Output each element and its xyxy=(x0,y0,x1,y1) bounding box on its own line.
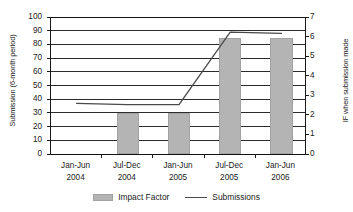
x-axis-label: Jan-Jun2005 xyxy=(152,160,203,188)
y-tick-label-left: 100 xyxy=(28,13,42,21)
x-axis-label-year: 2004 xyxy=(50,172,101,184)
legend-swatch-line-icon xyxy=(185,197,207,198)
x-tickmark xyxy=(204,154,205,158)
y-tick-label-left: 30 xyxy=(33,109,42,117)
x-axis-label-period: Jan-Jun xyxy=(152,160,203,172)
y-tick-label-right: 7 xyxy=(310,13,315,21)
legend-swatch-bar-icon xyxy=(93,194,113,201)
y-tick-label-left: 10 xyxy=(33,136,42,144)
y-tick-label-left: 20 xyxy=(33,123,42,131)
legend-label-submissions: Submissions xyxy=(212,192,259,202)
x-axis-label-period: Jan-Jun xyxy=(50,160,101,172)
legend-item-submissions: Submissions xyxy=(185,192,259,202)
x-tickmark xyxy=(101,154,102,158)
x-axis-tickmarks xyxy=(50,154,306,158)
y-tick-label-right: 1 xyxy=(310,130,315,138)
y-axis-ticks-right: 01234567 xyxy=(307,17,329,154)
x-axis-label: Jan-Jun2006 xyxy=(255,160,306,188)
x-axis-label-period: Jul-Dec xyxy=(204,160,255,172)
y-tick-label-right: 6 xyxy=(310,33,315,41)
y-tick-label-left: 80 xyxy=(33,40,42,48)
chart-container: Submission (6-month period) IF when subm… xyxy=(0,0,353,212)
y-tick-label-left: 50 xyxy=(33,82,42,90)
y-axis-ticks-left: 0102030405060708090100 xyxy=(22,17,44,154)
plot-area xyxy=(50,17,306,154)
x-axis-label-year: 2005 xyxy=(152,172,203,184)
y-tick-label-right: 5 xyxy=(310,52,315,60)
y-tick-label-left: 40 xyxy=(33,95,42,103)
x-axis-label-year: 2005 xyxy=(204,172,255,184)
legend-item-impact-factor: Impact Factor xyxy=(93,192,169,202)
y-tick-label-left: 60 xyxy=(33,68,42,76)
x-axis-label-year: 2006 xyxy=(255,172,306,184)
y-axis-title-left: Submission (6-month period) xyxy=(8,21,17,141)
x-axis-label-period: Jan-Jun xyxy=(255,160,306,172)
y-tick-label-right: 3 xyxy=(310,91,315,99)
legend-label-impact-factor: Impact Factor xyxy=(118,192,169,202)
x-axis-label-period: Jul-Dec xyxy=(101,160,152,172)
y-tick-label-left: 0 xyxy=(37,150,42,158)
y-tick-label-right: 0 xyxy=(310,150,315,158)
y-tick-label-left: 70 xyxy=(33,54,42,62)
y-tick-label-right: 4 xyxy=(310,72,315,80)
x-axis-label: Jul-Dec2004 xyxy=(101,160,152,188)
x-axis-labels: Jan-Jun2004Jul-Dec2004Jan-Jun2005Jul-Dec… xyxy=(50,160,306,188)
y-axis-title-right: IF when submission made xyxy=(341,21,350,141)
y-tick-label-right: 2 xyxy=(310,111,315,119)
x-tickmark xyxy=(255,154,256,158)
y-tick-label-left: 90 xyxy=(33,27,42,35)
x-tickmark xyxy=(152,154,153,158)
x-axis-label: Jul-Dec2005 xyxy=(204,160,255,188)
chart-legend: Impact Factor Submissions xyxy=(0,192,353,202)
line-series-submissions xyxy=(51,17,307,154)
x-axis-label: Jan-Jun2004 xyxy=(50,160,101,188)
x-axis-label-year: 2004 xyxy=(101,172,152,184)
